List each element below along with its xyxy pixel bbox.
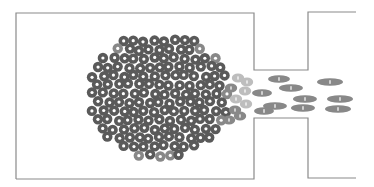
particle: [98, 87, 108, 97]
particle: [180, 123, 190, 133]
particle: [123, 78, 133, 88]
particle: [149, 52, 159, 62]
particle: [174, 132, 184, 142]
transition-particle: [223, 115, 235, 124]
particle: [155, 151, 165, 161]
particle: [173, 150, 183, 160]
particle: [138, 106, 148, 116]
transition-particle: [241, 77, 253, 86]
particle: [189, 140, 199, 150]
deformed-particle: [317, 78, 343, 86]
transition-particle: [240, 99, 252, 108]
deformed-particle: [268, 75, 290, 83]
particle: [158, 140, 168, 150]
particle: [149, 35, 159, 45]
particle: [170, 34, 180, 44]
particle: [102, 131, 112, 141]
particle: [93, 114, 103, 124]
particle: [204, 114, 214, 124]
particle-flow-diagram: [0, 0, 374, 187]
particle: [125, 43, 135, 53]
particle: [153, 97, 163, 107]
particle: [145, 149, 155, 159]
particle: [139, 54, 149, 64]
particle: [199, 105, 209, 115]
deformed-particles: [252, 75, 353, 115]
particle: [118, 141, 128, 151]
deformed-particle: [293, 95, 317, 103]
particle: [109, 88, 119, 98]
particle: [87, 87, 97, 97]
particle: [205, 79, 215, 89]
particle: [210, 124, 220, 134]
particle: [139, 87, 149, 97]
particle: [160, 70, 170, 80]
transition-particle: [234, 111, 246, 120]
particle: [205, 96, 215, 106]
deformed-particle: [325, 105, 351, 113]
particle: [196, 80, 206, 90]
particle: [204, 132, 214, 142]
transition-particle: [225, 83, 237, 92]
particle: [195, 43, 205, 53]
deformed-particle: [254, 107, 274, 115]
particle: [195, 114, 205, 124]
particle: [217, 97, 227, 107]
particle: [184, 45, 194, 55]
particle: [128, 70, 138, 80]
particle: [219, 70, 229, 80]
deformed-particle: [279, 84, 303, 92]
transition-particle: [239, 86, 251, 95]
particle: [113, 43, 123, 53]
particle: [134, 150, 144, 160]
particle: [206, 61, 216, 71]
particle: [169, 106, 179, 116]
particle: [129, 141, 139, 151]
particle: [168, 52, 178, 62]
particle: [93, 62, 103, 72]
deformed-particle: [327, 95, 353, 103]
deformed-particle: [252, 89, 272, 97]
particle: [154, 79, 164, 89]
particle: [175, 96, 185, 106]
particle: [178, 70, 188, 80]
particle: [128, 53, 138, 63]
particle: [144, 79, 154, 89]
particle: [185, 96, 195, 106]
particle: [159, 105, 169, 115]
particle: [122, 115, 132, 125]
particle: [109, 105, 119, 115]
particle: [108, 70, 118, 80]
particle: [164, 131, 174, 141]
particle: [196, 61, 206, 71]
particle: [189, 71, 199, 81]
particle: [180, 35, 190, 45]
particle: [109, 53, 119, 63]
particle: [129, 123, 139, 133]
particle-cluster: [87, 34, 232, 161]
particle: [139, 123, 149, 133]
particle: [98, 53, 108, 63]
particle: [102, 114, 112, 124]
particle: [87, 106, 97, 116]
particle: [125, 132, 135, 142]
particle: [93, 96, 103, 106]
deformed-particle: [291, 104, 315, 112]
particle: [154, 114, 164, 124]
constriction-flow-figure: [0, 0, 374, 187]
particle: [163, 80, 173, 90]
particle: [134, 79, 144, 89]
